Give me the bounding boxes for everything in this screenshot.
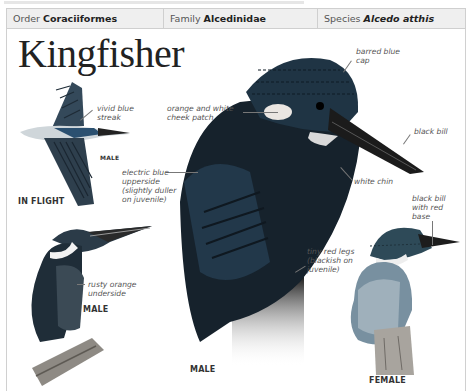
cheek-patch-label: orange and whitecheek patch (167, 104, 234, 122)
leader-line (432, 221, 433, 245)
black-bill-red-base-label: black billwith redbase (412, 194, 446, 221)
electric-blue-upperside-label: electric blueupperside(slightly dulleron… (122, 168, 176, 204)
center-male-caption: MALE (190, 365, 216, 374)
family-cell: FamilyAlcedinidae (164, 9, 318, 28)
white-chin-label: white chin (354, 177, 393, 186)
leader-line (243, 112, 278, 113)
flight-sex-caption: MALE (100, 154, 119, 161)
order-value: Coraciiformes (43, 13, 117, 24)
top-running-header (4, 1, 304, 4)
taxonomy-header: OrderCoraciiformes FamilyAlcedinidae Spe… (6, 8, 466, 29)
species-value: Alcedo atthis (364, 13, 435, 24)
leader-line (77, 284, 85, 285)
left-perched-caption: MALE (83, 305, 109, 314)
black-bill-label: black bill (414, 127, 448, 136)
species-cell: SpeciesAlcedo atthis (318, 9, 465, 28)
kingfisher-female-perched-image (340, 220, 465, 375)
in-flight-caption: IN FLIGHT (18, 197, 65, 206)
vivid-blue-streak-label: vivid bluestreak (97, 104, 134, 122)
rusty-orange-underside-label: rusty orangeunderside (88, 280, 137, 298)
barred-blue-cap-label: barred bluecap (356, 47, 400, 65)
family-value: Alcedinidae (204, 13, 266, 24)
order-cell: OrderCoraciiformes (7, 9, 164, 28)
female-caption: FEMALE (369, 376, 406, 385)
kingfisher-in-flight-image (14, 78, 134, 208)
kingfisher-male-perched-image (12, 218, 157, 388)
